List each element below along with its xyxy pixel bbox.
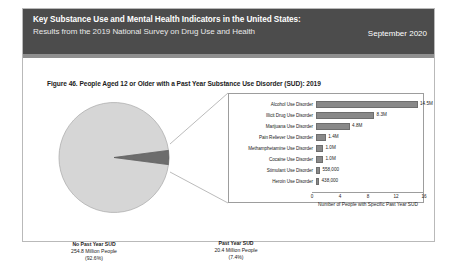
- bar-category-label: Marijuana Use Disorder: [229, 124, 316, 129]
- bar-category-label: Illicit Drug Use Disorder: [229, 113, 316, 118]
- report-date: September 2020: [368, 29, 427, 38]
- bar-value-label: 1.0M: [326, 156, 336, 161]
- pie-label-no-sud: No Past Year SUD 254.8 Million People (9…: [48, 241, 140, 263]
- bar-row: Pain Reliever Use Disorder1.4M: [229, 132, 425, 143]
- bar-category-label: Pain Reliever Use Disorder: [229, 135, 316, 140]
- bar-track: 1.0M: [316, 143, 425, 154]
- pie-label-no-sud-percent: (92.6%): [48, 255, 140, 262]
- bar-row: Alcohol Use Disorder14.5M: [229, 99, 425, 110]
- pie-label-past-year-sud-people: 20.4 Million People: [206, 247, 266, 254]
- x-axis-tick-label: 8: [367, 194, 370, 199]
- bar-row: Marijuana Use Disorder4.8M: [229, 121, 425, 132]
- bar-track: 8.3M: [316, 110, 425, 121]
- bar-value-label: 438,000: [322, 178, 339, 183]
- bar-value-label: 1.0M: [326, 145, 336, 150]
- bar-track: 558,000: [316, 165, 425, 176]
- pie-label-no-sud-people: 254.8 Million People: [48, 248, 140, 255]
- bar-fill: [316, 123, 350, 130]
- bar-row: Stimulant Use Disorder558,000: [229, 165, 425, 176]
- bar-category-label: Cocaine Use Disorder: [229, 157, 316, 162]
- bar-row: Methamphetamine Use Disorder1.0M: [229, 143, 425, 154]
- pie-chart-svg: [38, 100, 223, 215]
- bar-value-label: 8.3M: [377, 112, 387, 117]
- bar-track: 1.4M: [316, 132, 425, 143]
- bar-category-label: Stimulant Use Disorder: [229, 168, 316, 173]
- bar-fill: [316, 178, 319, 185]
- bar-chart-panel: Alcohol Use Disorder14.5MIllicit Drug Us…: [228, 93, 424, 203]
- bar-category-label: Methamphetamine Use Disorder: [229, 146, 316, 151]
- bar-value-label: 1.4M: [328, 134, 338, 139]
- x-axis-tick-label: 4: [339, 194, 342, 199]
- x-axis-tick-label: 0: [311, 194, 314, 199]
- pie-chart: No Past Year SUD 254.8 Million People (9…: [38, 100, 223, 215]
- bar-track: 4.8M: [316, 121, 425, 132]
- bar-value-label: 558,000: [322, 167, 339, 172]
- bar-track: 438,000: [316, 176, 425, 187]
- bar-fill: [316, 134, 326, 141]
- x-axis-tick-label: 16: [421, 194, 426, 199]
- bar-chart-rows: Alcohol Use Disorder14.5MIllicit Drug Us…: [229, 99, 425, 187]
- bar-track: 1.0M: [316, 154, 425, 165]
- bar-value-label: 14.5M: [420, 101, 433, 106]
- bar-fill: [316, 156, 323, 163]
- report-subtitle: Results from the 2019 National Survey on…: [33, 27, 255, 36]
- x-axis-ticks: 0481216: [312, 194, 424, 202]
- bar-row: Illicit Drug Use Disorder8.3M: [229, 110, 425, 121]
- report-title: Key Substance Use and Mental Health Indi…: [33, 15, 301, 24]
- pie-label-past-year-sud: Past Year SUD 20.4 Million People (7.4%): [206, 240, 266, 262]
- bar-row: Cocaine Use Disorder1.0M: [229, 154, 425, 165]
- pie-label-no-sud-name: No Past Year SUD: [48, 241, 140, 248]
- bar-fill: [316, 112, 374, 119]
- figure-title: Figure 46. People Aged 12 or Older with …: [47, 80, 321, 87]
- x-axis-tick-label: 12: [393, 194, 398, 199]
- bar-track: 14.5M: [316, 99, 425, 110]
- bar-fill: [316, 145, 323, 152]
- bar-fill: [316, 101, 418, 108]
- bar-category-label: Alcohol Use Disorder: [229, 102, 316, 107]
- x-axis-line: [312, 192, 424, 193]
- bar-value-label: 4.8M: [352, 123, 362, 128]
- x-axis-title: Number of People with Specific Past Year…: [312, 202, 424, 207]
- pie-label-past-year-sud-percent: (7.4%): [206, 254, 266, 261]
- bar-row: Heroin Use Disorder438,000: [229, 176, 425, 187]
- bar-category-label: Heroin Use Disorder: [229, 179, 316, 184]
- bar-fill: [316, 167, 320, 174]
- pie-label-past-year-sud-name: Past Year SUD: [206, 240, 266, 247]
- header-shadow: [23, 54, 434, 58]
